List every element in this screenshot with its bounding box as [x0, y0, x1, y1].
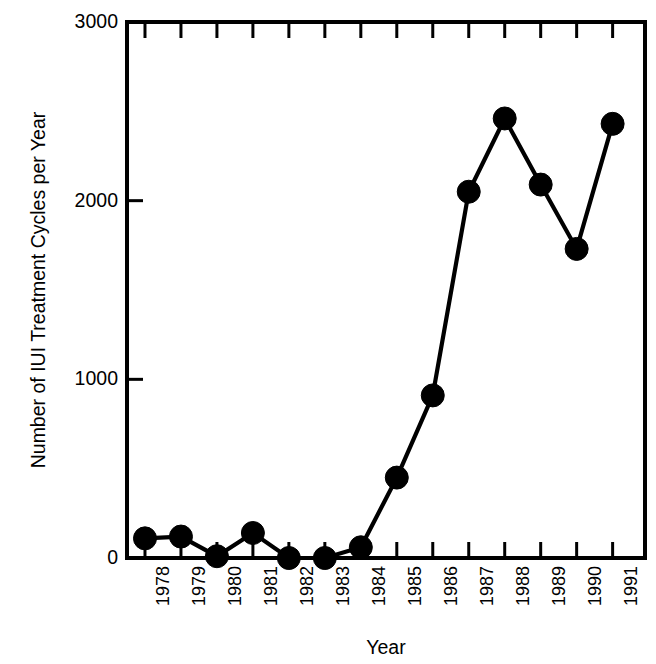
x-axis-tick-labels: 1978197919801981198219831984198519861987… — [0, 0, 656, 664]
x-tick-label: 1982 — [298, 566, 316, 636]
x-tick-label: 1983 — [334, 566, 352, 636]
x-tick-label: 1988 — [514, 566, 532, 636]
x-tick-label: 1981 — [262, 566, 280, 636]
x-tick-label: 1979 — [190, 566, 208, 636]
x-tick-label: 1984 — [370, 566, 388, 636]
x-tick-label: 1986 — [442, 566, 460, 636]
x-tick-label: 1990 — [586, 566, 604, 636]
x-tick-label: 1987 — [478, 566, 496, 636]
x-tick-label: 1985 — [406, 566, 424, 636]
x-tick-label: 1980 — [226, 566, 244, 636]
x-axis-title: Year — [127, 638, 645, 658]
x-tick-label: 1978 — [154, 566, 172, 636]
x-tick-label: 1989 — [550, 566, 568, 636]
chart-figure: Number of IUI Treatment Cycles per Year … — [0, 0, 656, 664]
x-tick-label: 1991 — [622, 566, 640, 636]
